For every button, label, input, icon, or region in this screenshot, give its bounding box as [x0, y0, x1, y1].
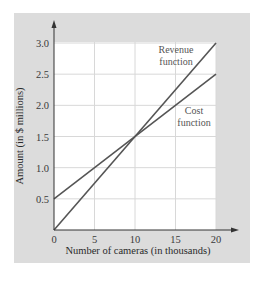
- x-tick-label: 0: [51, 234, 56, 245]
- y-tick-label: 3.0: [36, 38, 49, 49]
- x-tick-label: 20: [211, 234, 222, 245]
- revenue-annotation: Revenue: [159, 44, 195, 55]
- revenue-annotation: function: [159, 56, 192, 67]
- y-tick-label: 1.0: [36, 163, 49, 174]
- x-tick-label: 5: [92, 234, 97, 245]
- y-tick-label: 1.5: [36, 132, 49, 143]
- x-tick-label: 15: [170, 234, 181, 245]
- cost-annotation: function: [177, 117, 210, 128]
- y-tick-label: 2.5: [36, 69, 49, 80]
- y-tick-label: 2.0: [36, 100, 49, 111]
- chart: 05101520 0.51.01.52.02.53.0 Number of ca…: [0, 0, 259, 282]
- y-tick-label: 0.5: [36, 194, 49, 205]
- x-axis-label: Number of cameras (in thousands): [65, 245, 211, 257]
- x-tick-label: 10: [130, 234, 141, 245]
- cost-annotation: Cost: [185, 105, 204, 116]
- y-axis-label: Amount (in $ millions): [14, 87, 26, 185]
